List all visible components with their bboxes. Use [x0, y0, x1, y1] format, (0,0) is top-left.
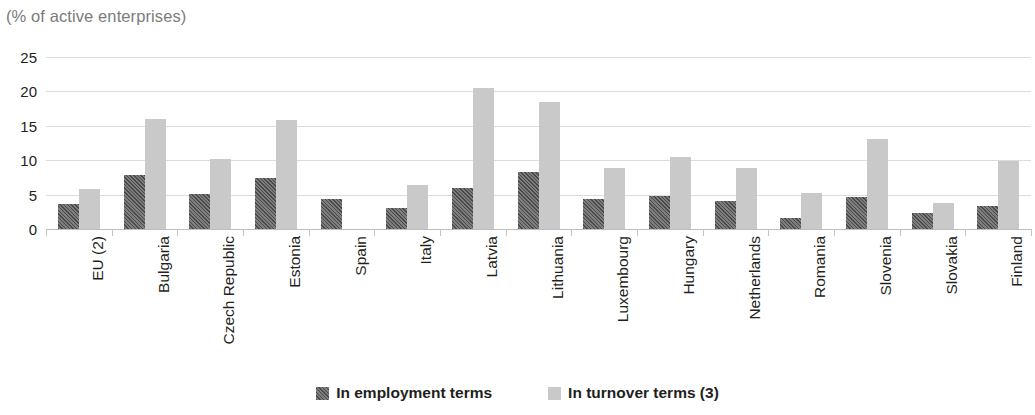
- x-axis-category-label: Bulgaria: [151, 236, 167, 293]
- x-axis-category-label: Finland: [1004, 236, 1020, 287]
- bar-employment: [321, 199, 342, 229]
- legend-swatch-turnover-icon: [548, 387, 561, 400]
- x-axis-labels: EU (2)BulgariaCzech RepublicEstoniaSpain…: [46, 236, 1031, 356]
- x-axis-tick: [1031, 229, 1032, 236]
- bar-group: [912, 57, 954, 229]
- bar-group: [124, 57, 166, 229]
- y-axis-tick-label: 25: [0, 49, 37, 66]
- bar-group: [780, 57, 822, 229]
- x-axis-tick: [177, 229, 178, 236]
- chart-legend: In employment termsIn turnover terms (3): [0, 382, 1035, 404]
- bar-group: [977, 57, 1019, 229]
- bar-turnover: [933, 203, 954, 229]
- x-axis-tick: [243, 229, 244, 236]
- bar-turnover: [276, 120, 297, 229]
- plot-area: [46, 57, 1031, 229]
- x-axis-category-label: Netherlands: [742, 236, 758, 320]
- bar-turnover: [998, 161, 1019, 229]
- x-axis-category-label: Slovakia: [939, 236, 955, 295]
- legend-item[interactable]: In employment terms: [316, 384, 492, 402]
- bar-employment: [58, 204, 79, 229]
- bar-group: [583, 57, 625, 229]
- bar-group: [58, 57, 100, 229]
- x-axis-tick: [637, 229, 638, 236]
- x-axis-category-label: EU (2): [85, 236, 101, 281]
- x-axis-tick: [440, 229, 441, 236]
- bar-employment: [977, 206, 998, 229]
- x-axis-tick: [965, 229, 966, 236]
- x-axis-category-label: Romania: [807, 236, 823, 298]
- x-axis-tick: [900, 229, 901, 236]
- bar-employment: [518, 172, 539, 229]
- x-axis-tick: [112, 229, 113, 236]
- legend-swatch-employment-icon: [316, 387, 329, 400]
- legend-label: In turnover terms (3): [568, 384, 719, 402]
- bar-group: [255, 57, 297, 229]
- bar-employment: [912, 213, 933, 230]
- bar-turnover: [670, 157, 691, 229]
- x-axis-tick: [506, 229, 507, 236]
- bar-employment: [715, 201, 736, 229]
- bar-turnover: [539, 102, 560, 229]
- x-axis-category-label: Spain: [348, 236, 364, 276]
- x-axis-category-label: Estonia: [282, 236, 298, 288]
- x-axis-tick: [309, 229, 310, 236]
- y-axis-tick-label: 0: [0, 221, 37, 238]
- x-axis-category-label: Italy: [413, 236, 429, 264]
- bar-turnover: [473, 88, 494, 229]
- bar-employment: [255, 178, 276, 229]
- bar-turnover: [407, 185, 428, 229]
- x-axis-category-label: Lithuania: [545, 236, 561, 299]
- x-axis-tick: [374, 229, 375, 236]
- bar-group: [321, 57, 363, 229]
- bar-group: [452, 57, 494, 229]
- bar-employment: [780, 218, 801, 229]
- bar-employment: [649, 196, 670, 229]
- bar-group: [715, 57, 757, 229]
- bar-employment: [386, 208, 407, 229]
- x-axis-category-label: Hungary: [676, 236, 692, 295]
- bar-employment: [846, 197, 867, 229]
- x-axis-tick: [703, 229, 704, 236]
- y-axis-tick-label: 15: [0, 117, 37, 134]
- bar-turnover: [867, 139, 888, 229]
- chart-subtitle: (% of active enterprises): [6, 7, 186, 26]
- bar-group: [386, 57, 428, 229]
- x-axis-ticks: [46, 229, 1031, 236]
- x-axis-category-label: Luxembourg: [610, 236, 626, 322]
- bar-turnover: [145, 119, 166, 229]
- legend-item[interactable]: In turnover terms (3): [548, 384, 719, 402]
- x-axis-tick: [46, 229, 47, 236]
- x-axis-tick: [768, 229, 769, 236]
- x-axis-category-label: Czech Republic: [216, 236, 232, 345]
- bar-turnover: [604, 168, 625, 229]
- bar-employment: [124, 175, 145, 229]
- bar-group: [189, 57, 231, 229]
- legend-label: In employment terms: [336, 384, 492, 402]
- x-axis-category-label: Slovenia: [873, 236, 889, 295]
- y-axis-tick-label: 10: [0, 152, 37, 169]
- y-axis-tick-label: 20: [0, 83, 37, 100]
- x-axis-tick: [834, 229, 835, 236]
- bar-turnover: [79, 189, 100, 229]
- bar-employment: [189, 194, 210, 229]
- bar-group: [649, 57, 691, 229]
- x-axis-category-label: Latvia: [479, 236, 495, 277]
- bar-employment: [452, 188, 473, 229]
- bar-turnover: [801, 193, 822, 229]
- bar-group: [846, 57, 888, 229]
- x-axis-tick: [571, 229, 572, 236]
- bar-employment: [583, 199, 604, 229]
- y-axis-tick-label: 5: [0, 186, 37, 203]
- bar-group: [518, 57, 560, 229]
- bar-chart: (% of active enterprises) 0510152025 EU …: [0, 0, 1035, 415]
- bar-turnover: [736, 168, 757, 229]
- bar-turnover: [210, 159, 231, 229]
